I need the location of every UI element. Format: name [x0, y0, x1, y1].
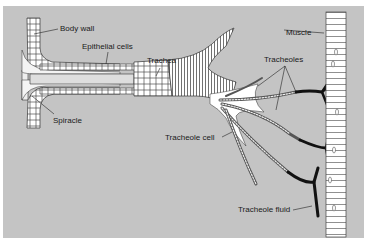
label-body-wall: Body wall	[60, 25, 94, 33]
trachea-cells	[134, 60, 172, 96]
body-wall	[22, 18, 120, 128]
label-muscle: Muscle	[286, 29, 311, 37]
muscle-fiber	[326, 12, 346, 237]
label-spiracle: Spiracle	[53, 117, 82, 125]
label-epithelial-cells: Epithelial cells	[82, 43, 133, 51]
label-tracheoles: Tracheoles	[264, 56, 303, 64]
tracheoles	[220, 78, 300, 184]
label-trachea: Trachea	[147, 57, 176, 65]
label-tracheole-cell: Tracheole cell	[165, 134, 215, 142]
label-tracheole-fluid: Tracheole fluid	[238, 206, 290, 214]
trachea-lumen	[30, 64, 140, 94]
